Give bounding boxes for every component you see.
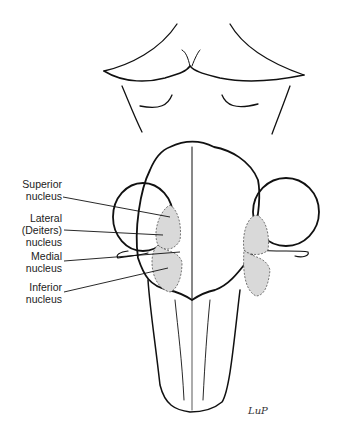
label-line: nucleus <box>0 262 62 274</box>
label-line: (Deiters) <box>0 224 62 236</box>
label-medial-nucleus: Medial nucleus <box>0 250 62 274</box>
label-line: Superior <box>0 178 62 190</box>
label-line: nucleus <box>0 293 62 305</box>
label-lateral-nucleus: Lateral (Deiters) nucleus <box>0 212 62 248</box>
lateral-leader-line <box>64 230 163 235</box>
label-line: nucleus <box>0 236 62 248</box>
label-line: Lateral <box>0 212 62 224</box>
label-line: Inferior <box>0 281 62 293</box>
label-superior-nucleus: Superior nucleus <box>0 178 62 202</box>
label-inferior-nucleus: Inferior nucleus <box>0 281 62 305</box>
artist-signature: LuP <box>248 405 268 416</box>
label-line: Medial <box>0 250 62 262</box>
inferior-leader-line <box>64 268 168 292</box>
label-line: nucleus <box>0 190 62 202</box>
